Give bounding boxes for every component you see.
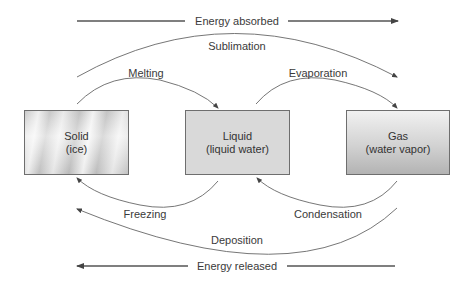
energy-released-label: Energy released bbox=[197, 260, 277, 272]
state-name-gas: Gas bbox=[388, 130, 408, 143]
state-box-gas: Gas (water vapor) bbox=[346, 110, 450, 175]
condensation-arrow bbox=[257, 178, 397, 207]
state-box-solid: Solid (ice) bbox=[24, 110, 129, 175]
sublimation-label: Sublimation bbox=[208, 40, 265, 52]
state-detail-solid: (ice) bbox=[66, 143, 87, 156]
deposition-label: Deposition bbox=[211, 234, 263, 246]
melting-label: Melting bbox=[128, 67, 163, 79]
evaporation-arrow bbox=[256, 78, 397, 108]
freezing-arrow bbox=[77, 178, 218, 207]
state-detail-liquid: (liquid water) bbox=[206, 143, 269, 156]
melting-arrow bbox=[77, 78, 218, 108]
freezing-label: Freezing bbox=[124, 208, 167, 220]
state-box-liquid: Liquid (liquid water) bbox=[185, 110, 290, 175]
state-detail-gas: (water vapor) bbox=[366, 143, 431, 156]
energy-absorbed-label: Energy absorbed bbox=[195, 15, 279, 27]
state-name-liquid: Liquid bbox=[223, 130, 252, 143]
evaporation-label: Evaporation bbox=[289, 67, 348, 79]
state-name-solid: Solid bbox=[64, 130, 88, 143]
condensation-label: Condensation bbox=[294, 208, 362, 220]
